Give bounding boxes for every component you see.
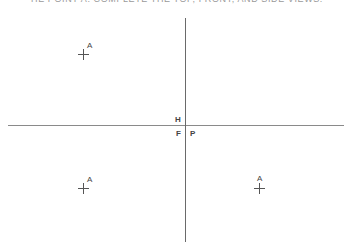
point-a-front-label: A: [87, 175, 92, 184]
instruction-title: HE POINT A. COMPLETE THE TOP, FRONT, AND…: [0, 0, 354, 4]
plane-label-profile: P: [190, 129, 195, 138]
horizontal-fold-line: [8, 125, 344, 126]
point-a-top-marker: [78, 49, 89, 60]
point-a-side-label: A: [257, 174, 262, 183]
plane-label-horizontal: H: [175, 115, 181, 124]
point-a-side-marker: [254, 183, 265, 194]
point-a-top-label: A: [87, 41, 92, 50]
plane-label-frontal: F: [176, 129, 181, 138]
vertical-fold-line: [185, 18, 186, 242]
point-a-front-marker: [78, 183, 89, 194]
